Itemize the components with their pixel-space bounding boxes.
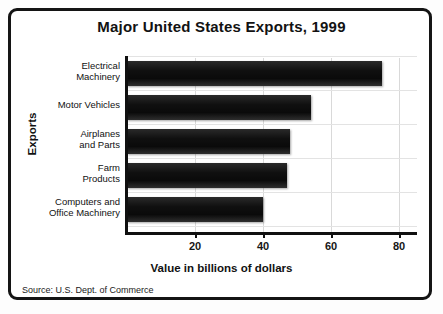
bar [127, 61, 382, 86]
x-axis-tick [331, 232, 333, 238]
category-label-line2: Office Machinery [4, 207, 120, 218]
x-axis-tick-label: 40 [243, 240, 283, 252]
category-label-line1: Airplanes [4, 128, 120, 139]
vertical-gridline [399, 58, 400, 233]
x-axis-tick [195, 232, 197, 238]
source-note: Source: U.S. Dept. of Commerce [22, 285, 154, 295]
chart-figure: Major United States Exports, 1999 Export… [0, 0, 443, 314]
category-label-line1: Farm [4, 162, 120, 173]
x-axis-tick [263, 232, 265, 238]
category-label-line2: Products [4, 173, 120, 184]
category-label-line1: Computers and [4, 196, 120, 207]
y-axis-spine [125, 56, 128, 235]
bar [127, 95, 311, 120]
horizontal-gridline [127, 158, 417, 159]
x-axis-tick [399, 232, 401, 238]
bar [127, 129, 290, 154]
horizontal-gridline [127, 226, 417, 227]
category-label-line2: Machinery [4, 71, 120, 82]
x-axis-tick-label: 20 [175, 240, 215, 252]
x-axis-tick-label: 80 [379, 240, 419, 252]
category-label-line2: and Parts [4, 139, 120, 150]
category-label-line1: Motor Vehicles [4, 99, 120, 110]
category-label-line1: Electrical [4, 60, 120, 71]
plot-area [127, 58, 417, 233]
bar [127, 197, 263, 222]
category-label-farm-products: Farm Products [4, 162, 120, 184]
horizontal-gridline [127, 192, 417, 193]
horizontal-gridline [127, 124, 417, 125]
horizontal-gridline [127, 90, 417, 91]
x-axis-tick-label: 60 [311, 240, 351, 252]
category-label-airplanes-and-parts: Airplanes and Parts [4, 128, 120, 150]
x-axis-label: Value in billions of dollars [0, 262, 443, 274]
category-label-electrical-machinery: Electrical Machinery [4, 60, 120, 82]
category-label-computers-office-machinery: Computers and Office Machinery [4, 196, 120, 218]
x-axis-spine [125, 232, 417, 235]
bar [127, 163, 287, 188]
category-label-motor-vehicles: Motor Vehicles [4, 99, 120, 110]
